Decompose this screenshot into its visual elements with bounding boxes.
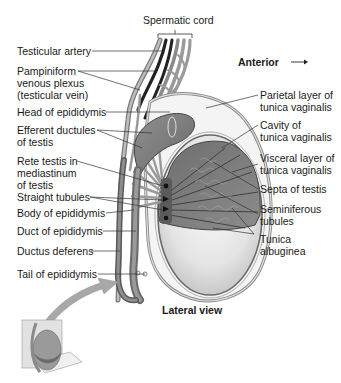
label-tunica-albuginea: Tunica albuginea (260, 233, 306, 257)
label-anterior: Anterior (238, 56, 279, 68)
label-tail-of-epididymis: Tail of epididymis (17, 268, 97, 280)
label-testicular-artery: Testicular artery (17, 45, 91, 57)
label-lateral-view: Lateral view (162, 304, 222, 316)
label-pampiniform-plexus: Pampiniform venous plexus (testicular ve… (17, 65, 88, 101)
label-body-of-epididymis: Body of epididymis (17, 207, 105, 219)
label-ductus-deferens: Ductus deferens (17, 245, 93, 257)
label-seminiferous-tubules: Seminiferous tubules (260, 203, 321, 227)
label-rete-testis: Rete testis in mediastinum of testis (17, 155, 78, 191)
label-cavity: Cavity of tunica vaginalis (260, 119, 332, 143)
label-spermatic-cord: Spermatic cord (143, 14, 214, 26)
label-efferent-ductules: Efferent ductules of testis (17, 124, 96, 148)
rete-testis-shape (160, 178, 172, 224)
anterior-arrow-icon (291, 60, 308, 65)
label-head-of-epididymis: Head of epididymis (17, 106, 106, 118)
label-parietal-layer: Parietal layer of tunica vaginalis (260, 89, 333, 113)
label-septa: Septa of testis (260, 183, 327, 195)
label-visceral-layer: Visceral layer of tunica vaginalis (260, 152, 335, 176)
spermatic-cord-bracket (158, 30, 192, 38)
label-straight-tubules: Straight tubules (17, 191, 90, 203)
label-duct-of-epididymis: Duct of epididymis (17, 225, 103, 237)
inset-orientation-thumbnail (22, 320, 82, 373)
